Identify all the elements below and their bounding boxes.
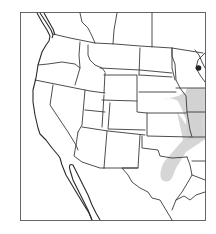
highlight-band xyxy=(160,88,205,182)
coastline xyxy=(33,13,100,220)
location-marker xyxy=(196,65,202,71)
us-west-outline-map xyxy=(0,0,216,234)
